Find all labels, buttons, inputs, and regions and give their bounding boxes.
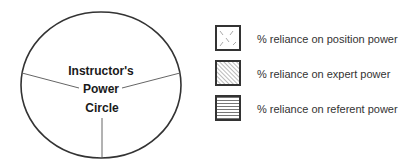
swatch-referent-power <box>216 96 240 120</box>
power-circle-diagram <box>0 0 410 166</box>
circle-title-line-2: Power <box>81 82 121 96</box>
swatch-position-power <box>216 26 240 50</box>
legend-label: % reliance on position power <box>257 33 398 45</box>
legend-label: % reliance on referent power <box>257 103 398 115</box>
circle-title-line-1: Instructor's <box>61 64 141 78</box>
legend-label: % reliance on expert power <box>257 68 390 80</box>
swatch-expert-power <box>216 61 240 85</box>
circle-title-line-3: Circle <box>82 101 122 115</box>
